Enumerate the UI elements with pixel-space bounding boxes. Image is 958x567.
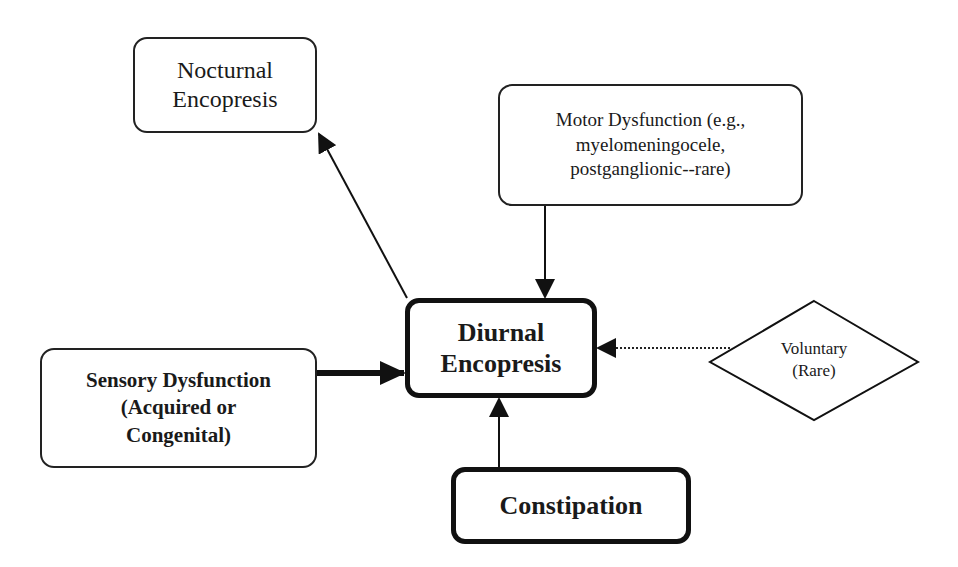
node-label: Nocturnal Encopresis	[172, 56, 277, 114]
node-nocturnal-encopresis: Nocturnal Encopresis	[133, 37, 317, 133]
node-constipation: Constipation	[451, 467, 691, 544]
node-diurnal-encopresis: Diurnal Encopresis	[405, 298, 597, 398]
node-label: Diurnal Encopresis	[441, 317, 562, 379]
node-label: Constipation	[499, 490, 642, 521]
node-motor-dysfunction: Motor Dysfunction (e.g., myelomeningocel…	[498, 84, 803, 206]
edge-diurnal-to-nocturnal	[319, 134, 407, 298]
node-label: Sensory Dysfunction (Acquired or Congeni…	[86, 367, 271, 449]
node-label: Voluntary (Rare)	[781, 338, 848, 382]
node-sensory-dysfunction: Sensory Dysfunction (Acquired or Congeni…	[40, 348, 317, 468]
node-voluntary: Voluntary (Rare)	[730, 330, 898, 390]
node-label: Motor Dysfunction (e.g., myelomeningocel…	[556, 108, 745, 182]
